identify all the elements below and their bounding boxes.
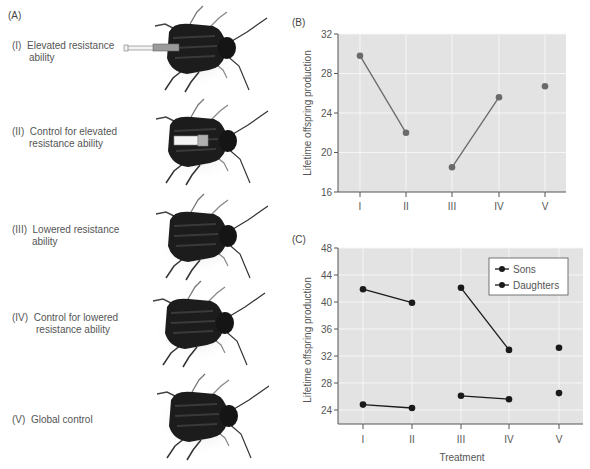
chart-b: 32 28 24 20 16 I II III IV V Lifetime of… <box>290 25 590 215</box>
svg-text:V: V <box>542 201 549 212</box>
beetle-4 <box>153 281 265 367</box>
chart-c-ylabel: Lifetime offspring production <box>302 277 313 402</box>
legend-marker-icon <box>499 282 505 288</box>
data-point <box>506 347 513 354</box>
legend-sons: Sons <box>513 264 536 275</box>
data-point <box>449 164 456 171</box>
svg-text:IV: IV <box>494 201 504 212</box>
svg-text:32: 32 <box>321 29 333 40</box>
data-point <box>458 393 465 400</box>
data-point <box>496 94 503 101</box>
svg-text:24: 24 <box>321 108 333 119</box>
chart-c-legend: Sons Daughters <box>489 258 568 295</box>
svg-text:V: V <box>556 434 563 445</box>
data-point <box>458 285 465 292</box>
data-point <box>506 396 513 403</box>
beetle-3 <box>156 194 268 280</box>
chart-c-xlabel: Treatment <box>439 452 484 463</box>
chart-c-xticks: I II III IV V <box>362 434 563 445</box>
legend-marker-icon <box>499 266 505 272</box>
svg-text:IV: IV <box>504 434 514 445</box>
svg-text:24: 24 <box>321 405 333 416</box>
data-point <box>357 52 364 59</box>
svg-text:28: 28 <box>321 378 333 389</box>
data-point <box>556 390 563 397</box>
chart-b-ylabel: Lifetime offspring production <box>302 50 313 175</box>
svg-text:II: II <box>403 201 409 212</box>
beetle-5 <box>157 374 269 460</box>
legend-daughters: Daughters <box>513 280 559 291</box>
data-point <box>409 299 416 306</box>
svg-text:44: 44 <box>321 270 333 281</box>
svg-text:I: I <box>359 201 362 212</box>
chart-b-yticks: 32 28 24 20 16 <box>321 29 333 198</box>
svg-text:36: 36 <box>321 324 333 335</box>
svg-text:28: 28 <box>321 68 333 79</box>
data-point <box>409 405 416 412</box>
beetle-illustrations <box>0 0 290 469</box>
data-point <box>542 83 549 90</box>
svg-text:I: I <box>362 434 365 445</box>
svg-text:III: III <box>448 201 456 212</box>
implant-tube-icon <box>174 135 208 146</box>
data-point <box>360 401 367 408</box>
beetle-1 <box>124 6 267 92</box>
svg-text:II: II <box>409 434 415 445</box>
chart-b-xticks: I II III IV V <box>359 201 549 212</box>
svg-text:32: 32 <box>321 351 333 362</box>
svg-text:20: 20 <box>321 147 333 158</box>
svg-text:III: III <box>457 434 465 445</box>
data-point <box>556 345 563 352</box>
beetle-2 <box>156 99 268 185</box>
svg-text:48: 48 <box>321 243 333 254</box>
chart-c-yticks: 48 44 40 36 32 28 24 <box>321 243 333 416</box>
chart-c: 48 44 40 36 32 28 24 I II III IV V Treat… <box>290 240 590 469</box>
implant-tube-icon <box>124 44 179 51</box>
svg-text:40: 40 <box>321 297 333 308</box>
svg-text:16: 16 <box>321 187 333 198</box>
data-point <box>360 286 367 293</box>
data-point <box>403 130 410 137</box>
